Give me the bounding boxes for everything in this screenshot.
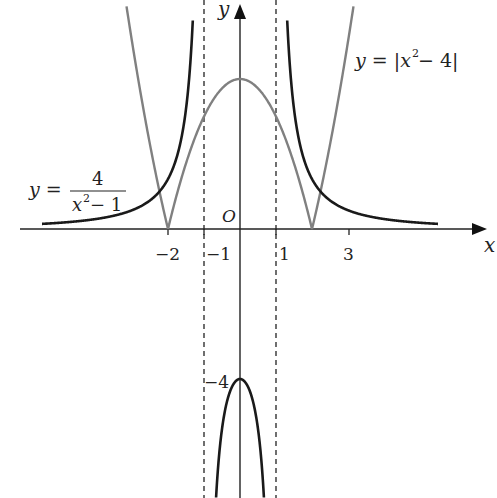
tick-label-3: 3 xyxy=(343,244,354,264)
y-axis-arrow-icon xyxy=(234,4,246,19)
svg-text:4: 4 xyxy=(92,168,103,189)
origin-label: O xyxy=(222,206,236,226)
tick-label-m1: −1 xyxy=(206,244,231,264)
tick-label-1: 1 xyxy=(279,244,290,264)
svg-text:− 4|: − 4| xyxy=(418,49,458,72)
x-axis-label: x xyxy=(484,233,495,257)
tick-label-m2: −2 xyxy=(155,244,180,264)
svg-text:y =: y = xyxy=(28,178,62,200)
svg-text:2: 2 xyxy=(83,192,90,205)
svg-text:y = |x: y = |x xyxy=(354,49,411,72)
tick-label-m4: −4 xyxy=(204,372,229,392)
equation-abs-label: y = |x 2 − 4| xyxy=(354,47,458,72)
svg-text:x: x xyxy=(72,194,82,215)
equation-reciprocal-label: y = 4 x 2 − 1 xyxy=(28,168,126,215)
function-graph: x y O −2 −1 1 3 −4 y = 4 x 2 − 1 y = |x … xyxy=(0,0,497,498)
svg-text:− 1: − 1 xyxy=(90,194,122,215)
y-axis-label: y xyxy=(217,0,230,21)
